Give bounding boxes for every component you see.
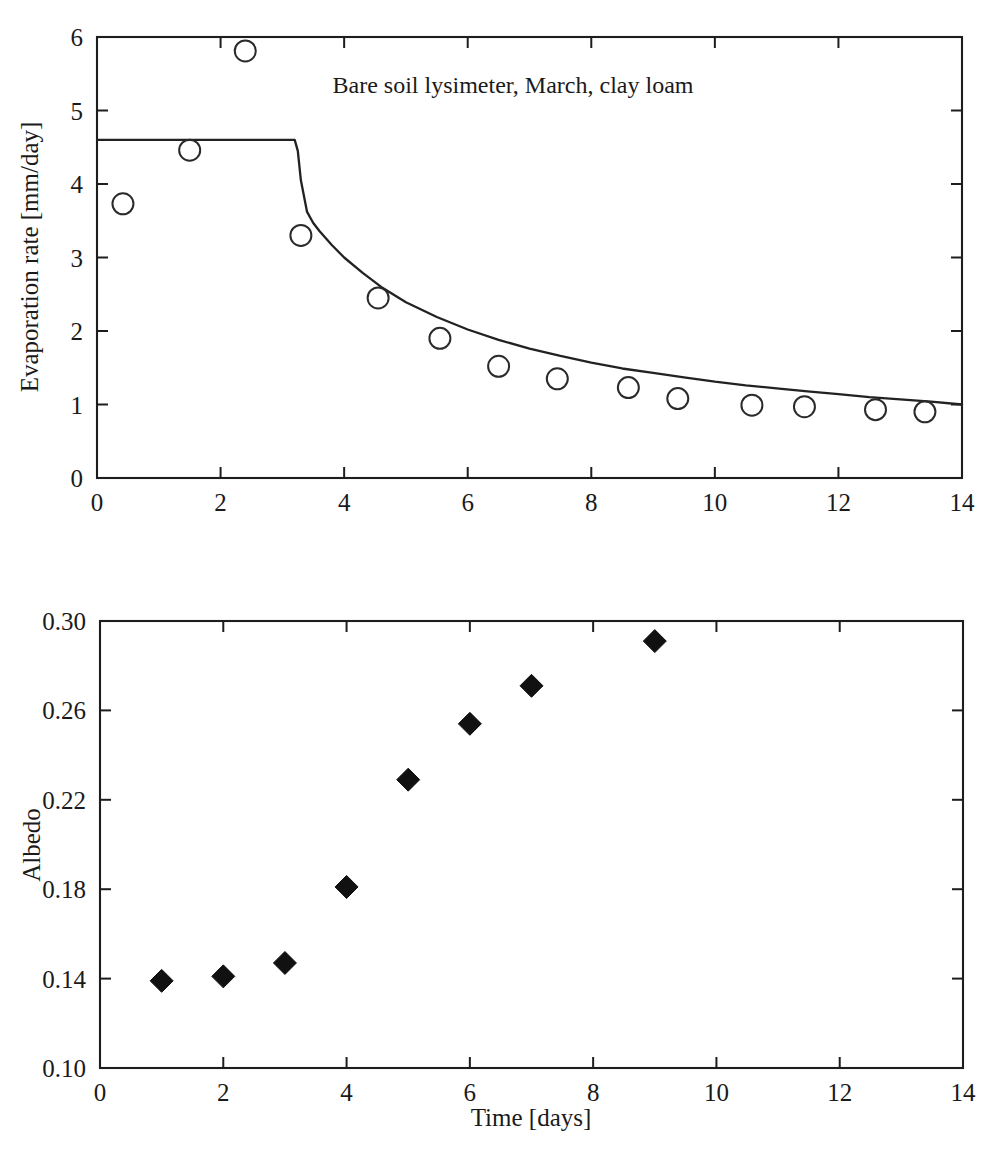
albedo-marker xyxy=(335,875,358,898)
x-tick-label: 10 xyxy=(702,489,727,516)
y-tick-label: 0.26 xyxy=(42,697,86,724)
albedo-svg: 02468101214 0.100.140.180.220.260.30 Tim… xyxy=(0,560,1005,1151)
y-tick-label: 2 xyxy=(71,318,84,345)
y-tick-label: 1 xyxy=(71,392,84,419)
x-tick-label: 8 xyxy=(587,1079,600,1106)
albedo-y-axis-label: Albedo xyxy=(18,808,45,882)
evaporation-marker xyxy=(547,368,568,389)
albedo-chart-panel: 02468101214 0.100.140.180.220.260.30 Tim… xyxy=(0,560,1005,1151)
evaporation-marker xyxy=(488,356,509,377)
x-tick-label: 12 xyxy=(826,489,851,516)
y-tick-label: 5 xyxy=(71,98,84,125)
y-tick-label: 0.18 xyxy=(42,876,86,903)
y-tick-label: 0.22 xyxy=(42,787,86,814)
y-tick-label: 0.10 xyxy=(42,1055,86,1082)
evaporation-marker xyxy=(618,377,639,398)
evaporation-y-axis-label: Evaporation rate [mm/day] xyxy=(16,122,43,393)
x-tick-label: 2 xyxy=(217,1079,230,1106)
y-tick-label: 0.14 xyxy=(42,966,86,993)
albedo-marker xyxy=(520,674,543,697)
evaporation-marker xyxy=(741,395,762,416)
evaporation-model-curve xyxy=(97,140,962,405)
x-tick-label: 14 xyxy=(951,1079,977,1106)
evaporation-y-ticklabels: 0123456 xyxy=(71,24,84,492)
albedo-data-points xyxy=(150,630,666,993)
evaporation-x-ticklabels: 02468101214 xyxy=(91,489,975,516)
x-tick-label: 12 xyxy=(827,1079,852,1106)
x-tick-label: 4 xyxy=(338,489,351,516)
evaporation-marker xyxy=(429,328,450,349)
evaporation-marker xyxy=(667,388,688,409)
x-tick-label: 10 xyxy=(704,1079,729,1106)
x-tick-label: 2 xyxy=(214,489,227,516)
evaporation-marker xyxy=(290,225,311,246)
x-tick-label: 8 xyxy=(585,489,598,516)
x-tick-label: 4 xyxy=(340,1079,353,1106)
albedo-x-axis-label: Time [days] xyxy=(471,1104,592,1131)
albedo-y-ticklabels: 0.100.140.180.220.260.30 xyxy=(42,608,86,1082)
y-tick-label: 3 xyxy=(71,245,84,272)
figure-container: 02468101214 0123456 Bare soil lysimeter,… xyxy=(0,0,1005,1151)
evaporation-marker xyxy=(865,399,886,420)
chart-title: Bare soil lysimeter, March, clay loam xyxy=(333,72,694,98)
y-tick-label: 0 xyxy=(71,465,84,492)
albedo-marker xyxy=(397,768,420,791)
albedo-marker xyxy=(458,712,481,735)
albedo-x-ticklabels: 02468101214 xyxy=(94,1079,976,1106)
evaporation-svg: 02468101214 0123456 Bare soil lysimeter,… xyxy=(0,0,1005,560)
x-tick-label: 6 xyxy=(464,1079,477,1106)
y-tick-label: 0.30 xyxy=(42,608,86,635)
evaporation-marker xyxy=(179,140,200,161)
albedo-marker xyxy=(150,969,173,992)
evaporation-marker xyxy=(368,287,389,308)
albedo-y-ticks xyxy=(100,710,963,978)
x-tick-label: 6 xyxy=(461,489,474,516)
y-tick-label: 6 xyxy=(71,24,84,51)
x-tick-label: 14 xyxy=(950,489,976,516)
albedo-marker xyxy=(643,630,666,653)
y-tick-label: 4 xyxy=(71,171,84,198)
evaporation-marker xyxy=(235,40,256,61)
evaporation-marker xyxy=(914,401,935,422)
evaporation-marker xyxy=(112,193,133,214)
evaporation-chart-panel: 02468101214 0123456 Bare soil lysimeter,… xyxy=(0,0,1005,560)
evaporation-y-ticks xyxy=(97,111,962,405)
x-tick-label: 0 xyxy=(91,489,104,516)
x-tick-label: 0 xyxy=(94,1079,107,1106)
evaporation-marker xyxy=(794,396,815,417)
albedo-marker xyxy=(212,965,235,988)
evaporation-x-ticks xyxy=(221,37,839,478)
evaporation-plot-frame xyxy=(97,37,962,478)
albedo-marker xyxy=(273,951,296,974)
